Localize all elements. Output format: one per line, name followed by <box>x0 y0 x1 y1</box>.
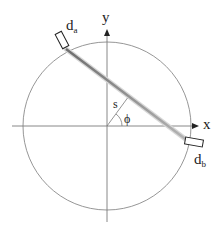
angle-phi-arc <box>116 114 122 126</box>
detector-a-label-base: d <box>66 17 74 33</box>
line-of-response <box>66 49 188 141</box>
angle-phi-label: ϕ <box>124 113 130 125</box>
y-axis-arrow-icon <box>104 29 110 36</box>
x-axis-arrow-icon <box>192 123 199 129</box>
tomography-geometry-diagram <box>0 0 220 234</box>
detector-b-label-base: d <box>194 151 202 167</box>
detector-a-label: da <box>66 18 78 35</box>
detector-b-icon <box>185 137 204 147</box>
detector-b-label-subscript: b <box>202 159 207 169</box>
detector-b-label: db <box>194 152 206 169</box>
x-axis-label: x <box>203 117 211 132</box>
y-axis-label: y <box>102 10 110 25</box>
distance-s-label: s <box>113 98 118 110</box>
detector-a-label-subscript: a <box>74 25 78 35</box>
